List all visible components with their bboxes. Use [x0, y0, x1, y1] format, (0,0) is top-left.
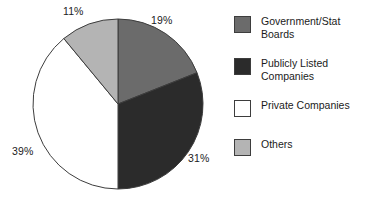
legend-swatch-publicly-listed-icon [234, 58, 251, 75]
slice-value-label-private: 39% [12, 145, 33, 157]
legend-label-line-2: Companies [261, 70, 314, 82]
legend-swatch-private-companies-icon [234, 100, 251, 117]
slice-value-label-publicly-listed: 31% [188, 152, 209, 164]
legend-label-publicly-listed-companies: Publicly ListedCompanies [261, 57, 328, 82]
legend-label-line-1: Government/Stat [261, 15, 340, 27]
pie-svg [0, 0, 232, 197]
legend-label-others: Others [261, 138, 293, 151]
legend-item-government-stat-boards: Government/StatBoards [234, 15, 340, 40]
legend-item-private-companies: Private Companies [234, 99, 350, 117]
legend-label-line-1: Publicly Listed [261, 57, 328, 69]
chart-legend: Government/StatBoards Publicly ListedCom… [234, 13, 366, 185]
legend-label-private-companies: Private Companies [261, 99, 350, 112]
legend-swatch-government-icon [234, 16, 251, 33]
legend-label-line-2: Boards [261, 28, 294, 40]
legend-item-publicly-listed-companies: Publicly ListedCompanies [234, 57, 328, 82]
pie-slices-group [33, 19, 203, 189]
pie-chart-figure: 19% 31% 39% 11% Government/StatBoards Pu… [0, 0, 366, 197]
slice-value-label-government: 19% [151, 14, 172, 26]
slice-value-label-others: 11% [63, 5, 84, 17]
legend-item-others: Others [234, 138, 293, 156]
legend-swatch-others-icon [234, 139, 251, 156]
legend-label-government-stat-boards: Government/StatBoards [261, 15, 340, 40]
pie-plot-area: 19% 31% 39% 11% [0, 0, 232, 197]
